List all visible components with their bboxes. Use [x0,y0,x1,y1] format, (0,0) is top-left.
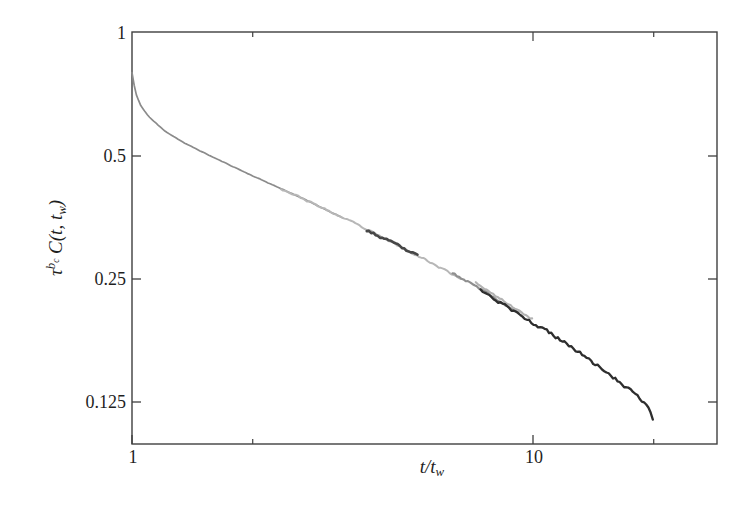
axis-label-segment: w [436,464,445,479]
axis-label-segment: τ [45,269,66,276]
x-tick-label: 1 [129,447,138,467]
data-series-tw-dark-final [481,289,653,419]
data-series-tw-dark-blob [367,231,418,255]
x-tick-label: 10 [525,447,543,467]
y-tick-label: 0.25 [95,269,127,289]
x-axis-label: t/tw [420,457,444,480]
axis-label-segment: t/t [420,456,436,477]
data-series-tw-smooth [132,73,343,218]
axis-label-segment: w [54,206,69,215]
axis-label-segment: C(t, t [45,215,66,259]
figure-page: 10.50.250.125110 τbc C(t, tw) t/tw [0,0,755,505]
axis-label-segment: c [51,259,61,263]
data-series-tw-light-b [476,282,532,318]
y-axis-label: τbc C(t, tw) [45,200,69,276]
y-tick-label: 0.5 [104,146,127,166]
plot-canvas: 10.50.250.125110 [0,0,755,505]
y-tick-label: 1 [117,23,126,43]
axis-label-segment: b [43,263,58,269]
plot-frame [132,32,717,444]
axis-label-segment: ) [45,200,66,206]
y-tick-label: 0.125 [86,392,127,412]
